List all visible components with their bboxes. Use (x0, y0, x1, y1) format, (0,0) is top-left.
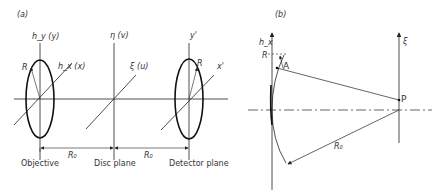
radius-label-b: R (262, 51, 268, 60)
objective-radius-label: R (22, 63, 28, 72)
wavefront-arc (272, 55, 286, 163)
xi-axis-label: ξ (402, 37, 408, 46)
objective-label: Objective (21, 159, 59, 168)
disc-diag-axis-label: ξ (u) (129, 62, 148, 71)
detector-plane: R y' x' (161, 31, 224, 160)
detector-vertical-axis-label: y' (189, 31, 197, 40)
diagram-canvas: (a) R h_y (y) h_x (x) η (v) ξ (u) R (0, 0, 439, 192)
detector-plane-label: Detector plane (169, 159, 229, 168)
r0-radius-arrow (288, 110, 399, 164)
hx-axis-label: h_x (259, 38, 273, 47)
r0-label-b: R₀ (334, 142, 344, 151)
panel-b: (b) h_x ξ R A P R₀ (248, 10, 432, 190)
panel-b-tag: (b) (275, 10, 286, 19)
disc-plane: η (v) ξ (u) (86, 31, 148, 160)
disc-plane-label: Disc plane (94, 159, 136, 168)
objective-diag-axis-label: h_x (x) (58, 62, 85, 71)
objective-vertical-axis-label: h_y (y) (32, 32, 59, 41)
panel-a-tag: (a) (17, 10, 28, 19)
distance-label-1: R₀ (68, 151, 78, 160)
point-a (276, 67, 279, 70)
distance-label-2: R₀ (144, 151, 154, 160)
point-p (398, 99, 401, 102)
detector-radius-label: R (197, 59, 203, 68)
panel-a: (a) R h_y (y) h_x (x) η (v) ξ (u) R (14, 10, 229, 168)
detector-diag-axis-label: x' (216, 62, 224, 71)
objective-plane: R h_y (y) h_x (x) (14, 32, 85, 160)
point-p-label: P (401, 94, 407, 104)
point-a-label: A (283, 61, 290, 71)
ray-a-to-p (277, 68, 399, 100)
disc-vertical-axis-label: η (v) (110, 31, 129, 40)
